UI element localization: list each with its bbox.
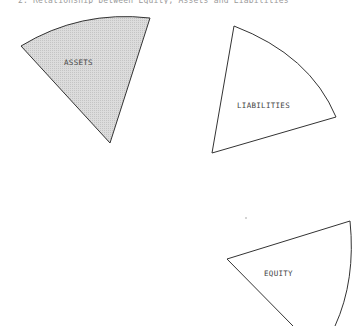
- equity-label: EQUITY: [264, 269, 293, 278]
- assets-label: ASSETS: [64, 58, 93, 67]
- speck-mark: [245, 217, 246, 218]
- equity-sector: EQUITY: [227, 221, 351, 326]
- pie-sector-diagram: ASSETS LIABILITIES EQUITY: [0, 0, 354, 326]
- liabilities-sector: LIABILITIES: [212, 26, 336, 153]
- assets-sector: ASSETS: [21, 17, 150, 143]
- liabilities-label: LIABILITIES: [237, 101, 290, 110]
